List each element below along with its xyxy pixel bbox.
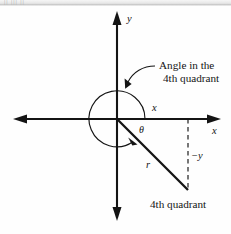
terminal-ray-line xyxy=(117,119,188,190)
annotation-leader-group xyxy=(125,66,155,89)
x-axis-left-arrowhead xyxy=(13,114,27,123)
x-axis-right-arrowhead xyxy=(207,114,221,123)
y-axis-label: y xyxy=(126,13,132,24)
annotation-line-1: Angle in the xyxy=(159,59,214,71)
axis-group xyxy=(13,11,221,221)
figure-root: || ||| || xyxy=(0,0,231,234)
trig-angle-diagram: y x x θ r −y Angle in the 4th quadrant 4… xyxy=(0,0,231,234)
annotation-leader-curve xyxy=(128,66,155,82)
annotation-line-2: 4th quadrant xyxy=(163,72,220,84)
y-axis-top-arrowhead xyxy=(113,11,122,25)
adjacent-side-label: x xyxy=(151,102,157,113)
annotation-leader-arrowhead xyxy=(125,78,132,88)
terminal-ray-group xyxy=(117,119,188,190)
quadrant-caption: 4th quadrant xyxy=(150,198,207,210)
radius-label: r xyxy=(146,159,151,170)
opposite-side-label: −y xyxy=(191,150,203,161)
y-axis-bottom-arrowhead xyxy=(113,207,122,221)
x-axis-label: x xyxy=(211,125,217,136)
theta-label: θ xyxy=(139,124,144,135)
